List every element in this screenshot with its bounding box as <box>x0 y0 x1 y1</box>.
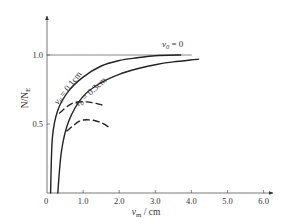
y-tick-label: 1.0 <box>32 50 43 60</box>
x-tick-label: 5.0 <box>222 196 233 206</box>
x-axis-label: vm / cm <box>132 207 161 219</box>
plot-area: 01.02.03.04.05.06.0 0.51.0 N/NE vm / cm … <box>0 0 287 224</box>
curve-label-v0-0: v0 = 0 <box>162 39 184 50</box>
y-axis-label: N/NE <box>20 88 32 109</box>
x-tick-label: 6.0 <box>258 196 269 206</box>
x-tick-label: 4.0 <box>186 196 197 206</box>
y-tick-label: 0.5 <box>32 119 43 129</box>
x-ticks: 01.02.03.04.05.06.0 <box>44 190 269 206</box>
chart: 01.02.03.04.05.06.0 0.51.0 N/NE vm / cm … <box>0 0 287 224</box>
x-tick-label: 2.0 <box>114 196 125 206</box>
series-line-4 <box>67 120 110 131</box>
x-tick-label: 1.0 <box>78 196 89 206</box>
x-tick-label: 3.0 <box>150 196 161 206</box>
x-tick-label: 0 <box>44 196 48 206</box>
